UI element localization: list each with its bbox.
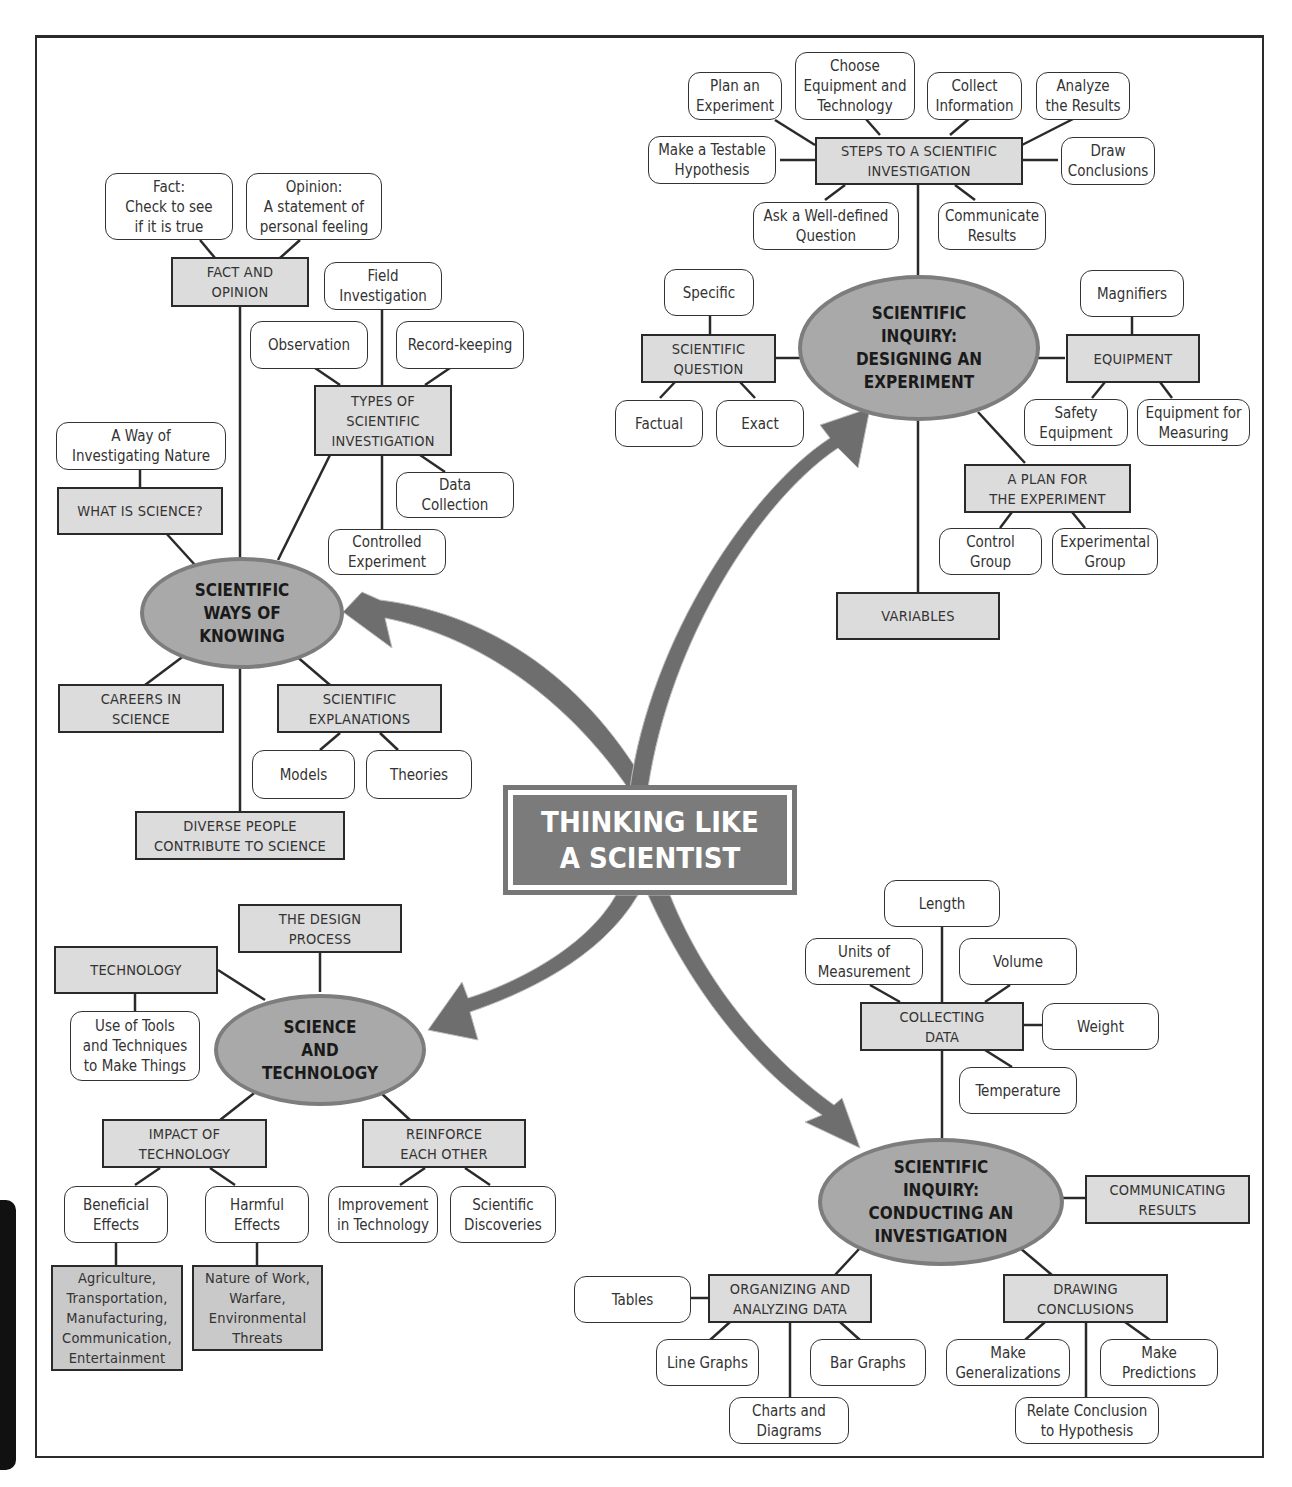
box-beneficial-list: Agriculture, Transportation, Manufacturi… — [51, 1265, 183, 1371]
box-fact-and-opinion: FACT AND OPINION — [171, 257, 309, 307]
box-design-process: THE DESIGN PROCESS — [238, 904, 402, 953]
leaf-improvement-in-technology: Improvement in Technology — [328, 1186, 438, 1243]
leaf-plan-an-experiment: Plan an Experiment — [688, 72, 782, 120]
arrow-to-designing — [630, 408, 870, 788]
box-communicating-results: COMMUNICATING RESULTS — [1085, 1175, 1250, 1224]
box-drawing-conclusions: DRAWING CONCLUSIONS — [1003, 1274, 1168, 1323]
leaf-record-keeping: Record-keeping — [396, 321, 524, 369]
leaf-specific: Specific — [664, 269, 754, 316]
hub-designing-experiment: SCIENTIFIC INQUIRY: DESIGNING AN EXPERIM… — [798, 275, 1040, 421]
box-collecting-data: COLLECTING DATA — [860, 1002, 1024, 1051]
leaf-models: Models — [252, 750, 355, 799]
box-technology: TECHNOLOGY — [54, 946, 218, 994]
leaf-collect-information: Collect Information — [927, 72, 1022, 120]
leaf-equipment-for-measuring: Equipment for Measuring — [1137, 399, 1250, 446]
leaf-make-testable-hypothesis: Make a Testable Hypothesis — [648, 136, 776, 184]
box-scientific-question: SCIENTIFIC QUESTION — [641, 334, 776, 383]
box-organizing-analyzing-data: ORGANIZING AND ANALYZING DATA — [708, 1274, 872, 1323]
box-impact-of-technology: IMPACT OF TECHNOLOGY — [102, 1119, 267, 1168]
leaf-make-generalizations: Make Generalizations — [946, 1339, 1070, 1386]
leaf-analyze-results: Analyze the Results — [1036, 72, 1130, 120]
leaf-theories: Theories — [366, 750, 472, 799]
hub-scientific-ways-of-knowing: SCIENTIFIC WAYS OF KNOWING — [140, 557, 344, 669]
box-what-is-science: WHAT IS SCIENCE? — [57, 487, 223, 535]
hub-science-and-technology: SCIENCE AND TECHNOLOGY — [214, 994, 426, 1106]
leaf-line-graphs: Line Graphs — [656, 1339, 759, 1386]
box-plan-for-experiment: A PLAN FOR THE EXPERIMENT — [964, 464, 1131, 513]
leaf-harmful-effects: Harmful Effects — [205, 1186, 309, 1243]
arrow-to-science-tech — [428, 895, 638, 1040]
box-diverse-people: DIVERSE PEOPLE CONTRIBUTE TO SCIENCE — [135, 811, 345, 860]
leaf-draw-conclusions: Draw Conclusions — [1061, 137, 1155, 185]
leaf-temperature: Temperature — [959, 1067, 1077, 1114]
central-topic: THINKING LIKE A SCIENTIST — [503, 785, 797, 895]
leaf-fact: Fact: Check to see if it is true — [105, 173, 233, 240]
leaf-weight: Weight — [1042, 1003, 1159, 1050]
box-steps-to-scientific-investigation: STEPS TO A SCIENTIFIC INVESTIGATION — [815, 137, 1023, 185]
leaf-experimental-group: Experimental Group — [1052, 528, 1158, 575]
leaf-observation: Observation — [250, 321, 368, 369]
leaf-length: Length — [884, 880, 1000, 927]
leaf-tables: Tables — [574, 1276, 691, 1323]
leaf-data-collection: Data Collection — [396, 472, 514, 518]
leaf-field-investigation: Field Investigation — [324, 262, 442, 310]
box-careers-in-science: CAREERS IN SCIENCE — [58, 684, 224, 733]
leaf-ask-well-defined-question: Ask a Well-defined Question — [753, 202, 899, 250]
box-harmful-list: Nature of Work, Warfare, Environmental T… — [192, 1265, 323, 1351]
leaf-relate-conclusion: Relate Conclusion to Hypothesis — [1015, 1397, 1159, 1444]
leaf-exact: Exact — [716, 400, 804, 447]
leaf-bar-graphs: Bar Graphs — [810, 1339, 926, 1386]
leaf-control-group: Control Group — [939, 528, 1042, 575]
leaf-units-of-measurement: Units of Measurement — [805, 938, 923, 985]
leaf-charts-and-diagrams: Charts and Diagrams — [729, 1397, 849, 1444]
box-variables: VARIABLES — [836, 592, 1000, 640]
leaf-volume: Volume — [959, 938, 1077, 985]
leaf-beneficial-effects: Beneficial Effects — [64, 1186, 168, 1243]
leaf-magnifiers: Magnifiers — [1080, 270, 1184, 317]
central-topic-title: THINKING LIKE A SCIENTIST — [513, 795, 787, 885]
leaf-opinion: Opinion: A statement of personal feeling — [246, 173, 382, 240]
box-types-of-scientific-investigation: TYPES OF SCIENTIFIC INVESTIGATION — [314, 385, 452, 456]
leaf-communicate-results: Communicate Results — [938, 202, 1046, 250]
leaf-way-of-investigating-nature: A Way of Investigating Nature — [56, 422, 226, 470]
leaf-choose-equipment: Choose Equipment and Technology — [795, 52, 915, 120]
box-reinforce-each-other: REINFORCE EACH OTHER — [362, 1119, 526, 1168]
leaf-scientific-discoveries: Scientific Discoveries — [450, 1186, 556, 1243]
leaf-safety-equipment: Safety Equipment — [1024, 399, 1128, 446]
box-equipment: EQUIPMENT — [1066, 334, 1200, 383]
leaf-use-of-tools: Use of Tools and Techniques to Make Thin… — [70, 1011, 200, 1081]
hub-conducting-investigation: SCIENTIFIC INQUIRY: CONDUCTING AN INVEST… — [818, 1138, 1064, 1266]
leaf-controlled-experiment: Controlled Experiment — [328, 529, 446, 575]
box-scientific-explanations: SCIENTIFIC EXPLANATIONS — [277, 684, 442, 733]
arrow-to-conducting — [648, 895, 860, 1148]
leaf-make-predictions: Make Predictions — [1100, 1339, 1218, 1386]
leaf-factual: Factual — [615, 400, 703, 447]
